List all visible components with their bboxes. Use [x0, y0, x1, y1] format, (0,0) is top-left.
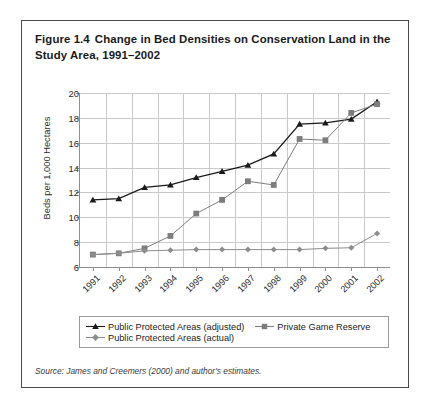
x-tick-mark	[325, 267, 326, 271]
y-tick-label: 14	[53, 162, 79, 173]
x-tick-mark	[300, 267, 301, 271]
x-tick-label: 1996	[203, 273, 231, 301]
y-axis-title: Beds per 1,000 Hectares	[42, 83, 52, 253]
legend-item-private-game-reserve[interactable]: Private Game Reserve	[255, 321, 370, 332]
x-tick-mark	[377, 267, 378, 271]
x-tick-label: 1992	[100, 273, 128, 301]
diamond-marker-icon	[86, 332, 105, 343]
chart-legend: Public Protected Areas (adjusted) Privat…	[79, 316, 389, 348]
data-point-marker	[245, 178, 251, 184]
data-point-marker	[297, 247, 303, 253]
x-tick-mark	[145, 267, 146, 271]
data-point-marker	[271, 247, 277, 253]
chart-plot-wrapper: Beds per 1,000 Hectares 6810121416182019…	[22, 79, 410, 311]
x-tick-label: 1997	[229, 273, 257, 301]
x-tick-label: 1994	[151, 273, 179, 301]
y-tick-label: 20	[53, 88, 79, 99]
data-point-marker	[219, 197, 225, 203]
data-point-marker	[297, 136, 303, 142]
data-point-marker	[168, 233, 174, 239]
x-tick-label: 1995	[177, 273, 205, 301]
legend-row-bottom: Public Protected Areas (actual)	[86, 332, 382, 343]
y-tick-label: 10	[53, 212, 79, 223]
legend-item-public-protected-adjusted[interactable]: Public Protected Areas (adjusted)	[86, 321, 244, 332]
data-point-marker	[193, 211, 199, 217]
legend-label-public-protected-adjusted: Public Protected Areas (adjusted)	[108, 322, 244, 332]
figure-number: Figure 1.4	[35, 33, 90, 45]
figure-container: Figure 1.4Change in Bed Densities on Con…	[21, 20, 409, 388]
data-point-marker	[323, 137, 329, 143]
x-tick-label: 1999	[280, 273, 308, 301]
legend-label-public-protected-actual: Public Protected Areas (actual)	[108, 333, 234, 343]
data-point-marker	[219, 247, 225, 253]
x-tick-mark	[93, 267, 94, 271]
series-line	[93, 102, 377, 200]
data-point-marker	[167, 247, 173, 253]
figure-title: Figure 1.4Change in Bed Densities on Con…	[35, 32, 393, 63]
x-tick-label: 1991	[74, 273, 102, 301]
x-tick-label: 2002	[358, 273, 386, 301]
data-point-marker	[271, 182, 277, 188]
series-line	[93, 104, 377, 254]
series-line	[93, 233, 377, 254]
legend-row-top: Public Protected Areas (adjusted) Privat…	[86, 321, 382, 332]
x-tick-mark	[196, 267, 197, 271]
x-tick-mark	[274, 267, 275, 271]
x-tick-mark	[119, 267, 120, 271]
data-point-marker	[245, 162, 252, 168]
x-tick-label: 1998	[255, 273, 283, 301]
x-tick-label: 2000	[306, 273, 334, 301]
data-point-marker	[245, 247, 251, 253]
data-point-marker	[322, 245, 328, 251]
data-point-marker	[348, 245, 354, 251]
x-tick-label: 1993	[125, 273, 153, 301]
legend-label-private-game-reserve: Private Game Reserve	[277, 322, 370, 332]
x-tick-mark	[222, 267, 223, 271]
series-layer	[80, 93, 390, 267]
y-tick-label: 12	[53, 187, 79, 198]
data-point-marker	[374, 230, 380, 236]
triangle-marker-icon	[86, 321, 105, 332]
y-tick-label: 18	[53, 112, 79, 123]
square-marker-icon	[255, 321, 274, 332]
data-point-marker	[193, 247, 199, 253]
x-tick-mark	[170, 267, 171, 271]
data-point-marker	[374, 101, 380, 107]
x-tick-label: 2001	[332, 273, 360, 301]
y-tick-label: 16	[53, 137, 79, 148]
legend-item-public-protected-actual[interactable]: Public Protected Areas (actual)	[86, 332, 234, 343]
x-tick-mark	[351, 267, 352, 271]
x-tick-mark	[248, 267, 249, 271]
y-tick-label: 6	[53, 262, 79, 273]
source-note: Source: James and Creemers (2000) and au…	[35, 366, 261, 376]
plot-area: 6810121416182019911992199319941995199619…	[79, 93, 390, 268]
data-point-marker	[348, 110, 354, 116]
y-tick-label: 8	[53, 237, 79, 248]
